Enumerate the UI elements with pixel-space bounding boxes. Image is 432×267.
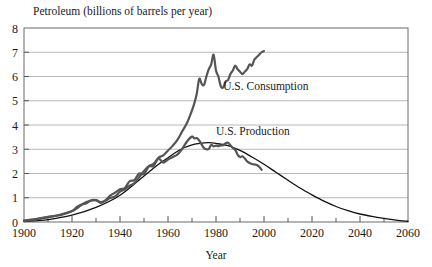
y-axis-tick-labels: 012345678 (12, 22, 18, 230)
x-tick-label: 2000 (252, 226, 276, 240)
y-tick-label: 3 (12, 143, 18, 157)
x-tick-label: 1940 (108, 226, 132, 240)
y-tick-label: 2 (12, 167, 18, 181)
x-tick-label: 2060 (396, 226, 420, 240)
y-tick-label: 6 (12, 70, 18, 84)
chart-title: Petroleum (billions of barrels per year) (33, 5, 212, 18)
x-tick-label: 1960 (156, 226, 180, 240)
x-tick-label: 1920 (60, 226, 84, 240)
y-tick-label: 1 (12, 191, 18, 205)
x-axis-tick-labels: 190019201940196019802000202020402060 (12, 226, 420, 240)
series-label-us-production: U.S. Production (216, 125, 290, 137)
petroleum-production-consumption-chart: Petroleum (billions of barrels per year)… (0, 0, 432, 267)
x-axis-label: Year (205, 249, 226, 261)
y-tick-label: 4 (12, 119, 18, 133)
chart-canvas: Petroleum (billions of barrels per year)… (0, 0, 432, 267)
y-tick-label: 0 (12, 216, 18, 230)
x-tick-label: 1980 (204, 226, 228, 240)
x-tick-label: 2040 (348, 226, 372, 240)
y-tick-label: 7 (12, 46, 18, 60)
y-tick-label: 8 (12, 22, 18, 36)
x-tick-label: 2020 (300, 226, 324, 240)
y-tick-label: 5 (12, 94, 18, 108)
series-label-us-consumption: U.S. Consumption (223, 80, 309, 93)
